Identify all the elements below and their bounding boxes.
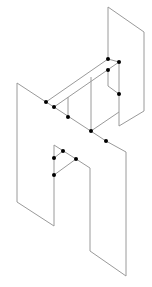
edge-line xyxy=(54,145,76,159)
edge-line xyxy=(76,159,90,168)
edge-line xyxy=(54,159,76,175)
diagram-lines xyxy=(17,7,144,276)
vertex-dot xyxy=(117,92,121,96)
edge-line xyxy=(17,202,54,226)
vertex-dot xyxy=(89,129,93,133)
edge-line xyxy=(17,83,46,102)
edge-line xyxy=(54,107,106,141)
vertex-dot xyxy=(66,115,70,119)
edge-line xyxy=(106,141,126,152)
vertex-dot xyxy=(52,105,56,109)
edge-line xyxy=(119,111,144,126)
vertex-dot xyxy=(104,139,108,143)
diagram-dots xyxy=(44,57,121,177)
edge-line xyxy=(90,251,126,276)
edge-line xyxy=(46,59,108,102)
edge-line xyxy=(108,7,144,32)
vertex-dot xyxy=(61,149,65,153)
vertex-dot xyxy=(52,173,56,177)
vertex-dot xyxy=(52,156,56,160)
vertex-dot xyxy=(106,57,110,61)
vertex-dot xyxy=(106,68,110,72)
edge-line xyxy=(91,112,119,131)
edge-line xyxy=(108,86,119,94)
diagram-canvas xyxy=(0,0,152,287)
vertex-dot xyxy=(44,100,48,104)
vertex-dot xyxy=(117,60,121,64)
vertex-dot xyxy=(74,157,78,161)
